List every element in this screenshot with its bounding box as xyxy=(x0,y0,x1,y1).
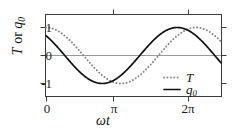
legend-label-q0-base: q xyxy=(186,82,193,97)
x-tick-label-2pi: 2π xyxy=(176,101,200,117)
x-tick-label-0: 0 xyxy=(35,101,59,117)
legend-label-q0-subscript: 0 xyxy=(193,88,197,98)
y-tick-label-neg1: -1 xyxy=(32,76,52,92)
y-axis-label-second-subscript: 0 xyxy=(17,17,27,22)
y-axis-label-conjunction: or xyxy=(10,29,25,48)
y-axis-label: T or q0 xyxy=(10,0,26,72)
y-tick-label-1: 1 xyxy=(32,20,52,36)
figure-container: 1 0 -1 0 π 2π T or q0 ωt T q0 xyxy=(0,0,233,131)
y-tick-label-0: 0 xyxy=(32,48,52,64)
legend-label-q0: q0 xyxy=(186,82,197,98)
x-axis-ticks-top xyxy=(114,10,189,15)
y-axis-ticks-right xyxy=(222,28,227,84)
y-axis-label-first: T xyxy=(10,47,25,55)
x-axis-label: ωt xyxy=(96,113,110,129)
y-axis-label-second: q xyxy=(10,22,25,29)
